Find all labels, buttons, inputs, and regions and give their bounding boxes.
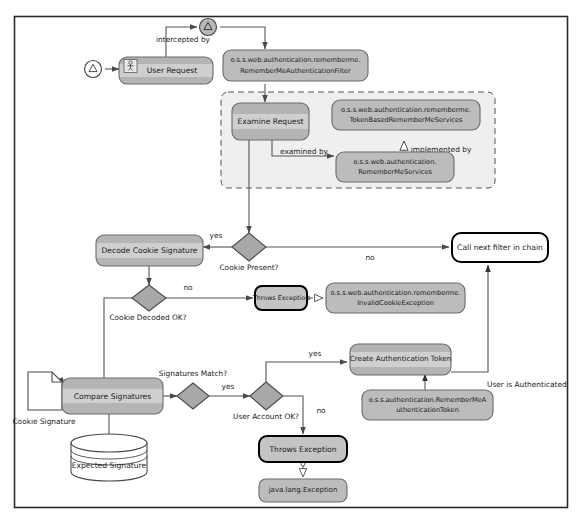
node-remember-me-services-line1: o.s.s.web.authentication.	[354, 158, 437, 166]
actor-icon	[124, 60, 137, 73]
edge-label-cookie-present-no: no	[365, 253, 375, 262]
node-throws-exception-account[interactable]: Throws Exception	[259, 436, 347, 462]
node-java-lang-exception[interactable]: java.lang.Exception	[259, 479, 347, 502]
edge-label-cookie-decoded-no: no	[183, 283, 193, 292]
edge-label-account-no: no	[316, 406, 326, 415]
flow-diagram-svg: intercepted by examined by implemented b…	[0, 0, 582, 524]
node-invalid-cookie-exception-line1: o.s.s.web.authentication.rememberme.	[331, 289, 461, 297]
label-signatures-match: Signatures Match?	[159, 369, 227, 378]
node-remember-me-auth-token[interactable]: o.s.s.authentication.RememberMeA uthenti…	[362, 390, 493, 420]
node-throws-exception-cookie[interactable]: Throws Exception	[252, 286, 309, 310]
label-user-account-ok: User Account OK?	[233, 412, 299, 421]
edge-label-user-authenticated: User is Authenticated	[487, 380, 567, 389]
node-throws-exception-account-label: Throws Exception	[268, 445, 336, 454]
edge-label-cookie-present-yes: yes	[210, 231, 223, 240]
node-decode-cookie-signature[interactable]: Decode Cookie Signature	[96, 235, 203, 266]
edge-label-signatures-match-yes: yes	[222, 382, 235, 391]
start-node[interactable]	[85, 61, 102, 78]
node-remember-me-auth-token-line1: o.s.s.authentication.RememberMeA	[369, 396, 487, 404]
node-java-lang-exception-label: java.lang.Exception	[268, 486, 338, 494]
node-cookie-signature-document[interactable]	[28, 372, 62, 410]
node-user-request[interactable]: User Request	[119, 57, 213, 84]
diagram-canvas: intercepted by examined by implemented b…	[0, 0, 582, 524]
node-compare-signatures-label: Compare Signatures	[74, 392, 151, 401]
node-compare-signatures[interactable]: Compare Signatures	[62, 378, 163, 414]
node-user-request-label: User Request	[147, 66, 198, 75]
node-examine-request[interactable]: Examine Request	[232, 103, 309, 140]
node-decode-cookie-signature-label: Decode Cookie Signature	[101, 246, 197, 255]
node-remember-me-services-line2: RememberMeServices	[358, 168, 432, 176]
node-remember-me-filter[interactable]: o.s.s.web.authentication.rememberme. Rem…	[223, 50, 368, 81]
node-invalid-cookie-exception-line2: InvalidCookieException	[357, 299, 434, 307]
label-cookie-present: Cookie Present?	[219, 263, 278, 272]
edge-label-account-yes: yes	[309, 349, 322, 358]
node-remember-me-filter-line1: o.s.s.web.authentication.rememberme.	[231, 56, 361, 64]
node-remember-me-services[interactable]: o.s.s.web.authentication. RememberMeServ…	[336, 152, 454, 182]
edge-label-examined-by: examined by	[280, 147, 329, 156]
node-remember-me-auth-token-line2: uthenticationToken	[396, 406, 459, 414]
node-throws-exception-cookie-label: Throws Exception	[252, 294, 309, 302]
node-call-next-filter[interactable]: Call next filter in chain	[452, 233, 548, 262]
node-call-next-filter-label: Call next filter in chain	[457, 243, 543, 252]
edge-label-intercepted-by: intercepted by	[156, 35, 211, 44]
node-expected-signature-db-label: Expected Signature	[72, 461, 147, 470]
node-create-auth-token[interactable]: Create Authentication Token	[350, 344, 452, 375]
label-cookie-signature: Cookie Signature	[12, 417, 76, 426]
node-create-auth-token-label: Create Authentication Token	[350, 354, 452, 363]
node-token-based-services-line2: TokenBasedRememberMeServices	[349, 116, 463, 124]
node-examine-request-label: Examine Request	[237, 117, 303, 126]
node-token-based-services-line1: o.s.s.web.authentication.rememberme.	[341, 106, 471, 114]
node-remember-me-filter-line2: RememberMeAuthenticationFilter	[240, 67, 351, 75]
node-expected-signature-db[interactable]: Expected Signature	[71, 434, 147, 481]
interceptor-node[interactable]	[200, 19, 217, 36]
node-invalid-cookie-exception[interactable]: o.s.s.web.authentication.rememberme. Inv…	[326, 283, 465, 313]
label-cookie-decoded-ok: Cookie Decoded OK?	[109, 313, 186, 322]
node-token-based-services[interactable]: o.s.s.web.authentication.rememberme. Tok…	[332, 100, 480, 130]
